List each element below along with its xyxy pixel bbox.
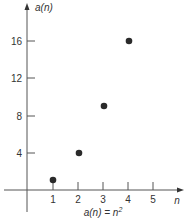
data-point — [76, 150, 83, 157]
x-axis-arrow-icon — [177, 188, 184, 193]
chart: 16 12 8 4 1 2 3 4 5 a(n) n a(n) = n2 — [0, 0, 190, 222]
x-tick-label: 5 — [150, 194, 156, 205]
chart-caption: a(n) = n2 — [84, 206, 123, 218]
data-point — [101, 103, 108, 110]
y-axis-arrow-icon — [25, 3, 30, 10]
x-ticks — [53, 182, 153, 190]
x-axis-label: n — [174, 195, 180, 206]
y-tick-label: 16 — [11, 36, 23, 47]
y-tick-label: 8 — [16, 111, 22, 122]
y-tick-label: 12 — [11, 73, 23, 84]
x-tick-label: 3 — [100, 194, 106, 205]
x-tick-label: 2 — [75, 194, 81, 205]
y-tick-label: 4 — [16, 148, 22, 159]
data-point — [50, 177, 57, 184]
x-tick-label: 4 — [125, 194, 131, 205]
x-tick-label: 1 — [50, 194, 56, 205]
y-axis-label: a(n) — [35, 2, 53, 13]
data-points — [50, 38, 133, 184]
y-ticks — [27, 41, 35, 153]
data-point — [126, 38, 133, 45]
